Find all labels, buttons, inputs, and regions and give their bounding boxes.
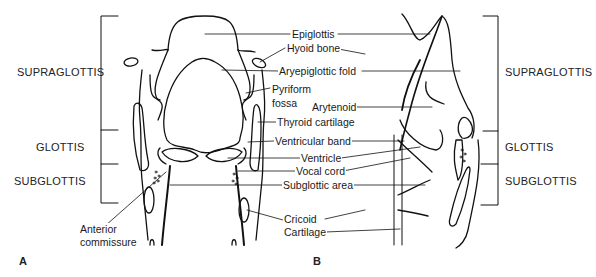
- label-vocal-cord: Vocal cord: [295, 165, 346, 177]
- label-pyriform: Pyriform: [271, 83, 312, 95]
- region-label-glottis-right: GLOTTIS: [505, 141, 553, 153]
- label-hyoid-bone: Hyoid bone: [286, 42, 341, 54]
- panel-label-a: A: [19, 255, 27, 267]
- label-cartilage: Cartilage: [283, 226, 327, 238]
- label-anterior: Anterior: [79, 223, 118, 235]
- label-ventricular-band: Ventricular band: [274, 135, 352, 147]
- label-ventricle: Ventricle: [300, 152, 342, 164]
- label-fossa: fossa: [271, 97, 298, 109]
- region-label-supraglottis-left: SUPRAGLOTTIS: [17, 66, 104, 78]
- label-arytenoid: Arytenoid: [311, 101, 357, 113]
- left-region-brackets: [101, 16, 118, 203]
- panel-b-drawing: [394, 14, 479, 248]
- region-label-subglottis-right: SUBGLOTTIS: [505, 175, 577, 187]
- label-aryepiglottic-fold: Aryepiglottic fold: [278, 65, 357, 77]
- panel-a-drawing: [123, 16, 267, 245]
- panel-label-b: B: [313, 255, 321, 267]
- region-label-supraglottis-right: SUPRAGLOTTIS: [505, 66, 592, 78]
- label-commissure: commissure: [79, 236, 138, 248]
- right-region-brackets: [481, 16, 498, 205]
- region-label-subglottis-left: SUBGLOTTIS: [14, 175, 86, 187]
- label-leader-lines: [105, 34, 460, 232]
- label-thyroid-cartilage: Thyroid cartilage: [276, 116, 356, 128]
- label-epiglottis: Epiglottis: [291, 28, 336, 40]
- region-label-glottis-left: GLOTTIS: [36, 141, 84, 153]
- label-cricoid: Cricoid: [283, 213, 318, 225]
- label-subglottic-area: Subglottic area: [282, 179, 354, 191]
